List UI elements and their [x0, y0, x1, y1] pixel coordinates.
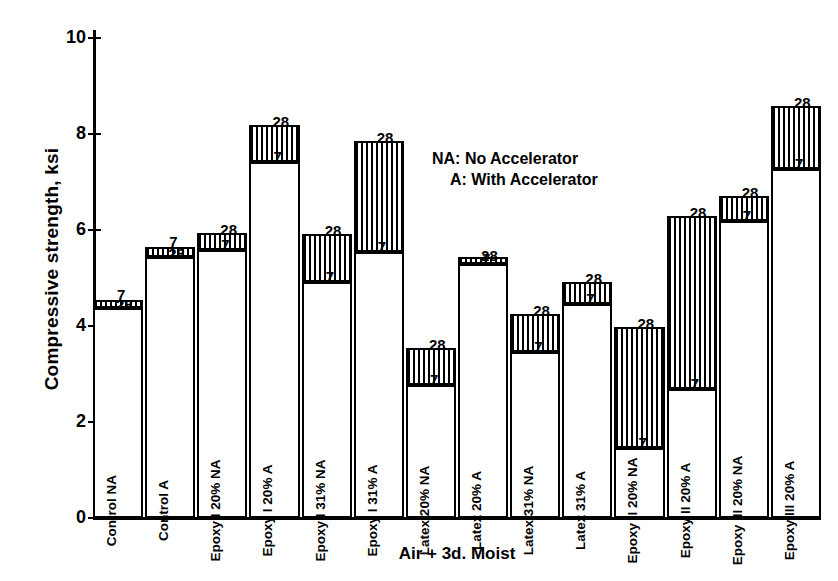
bar-7day-base[interactable] [145, 257, 195, 519]
bar-group[interactable]: 287Epoxy II 20% NA [614, 30, 664, 518]
bar-value-label-28: 28 [742, 185, 759, 200]
bar-value-label-7: 7 [638, 435, 646, 450]
bar-category-label: Control A [157, 480, 171, 541]
bar-category-label: Epoxy I 20% A [261, 464, 275, 556]
bar-group[interactable]: 287Epoxy I 20% A [249, 30, 299, 518]
bar-group[interactable]: 287Epoxy I 31% NA [302, 30, 352, 518]
bar-group[interactable]: 287Latex 20% NA [406, 30, 456, 518]
bar-value-label-7: 7 [691, 376, 699, 391]
bar-value-label-7: 7 [586, 291, 594, 306]
bar-group[interactable]: 287Epoxy III 20% A [771, 30, 821, 518]
y-axis-tick-label: 4 [0, 315, 96, 336]
y-axis-tick-label: 0 [0, 507, 96, 528]
bar-value-label-7: 7 [378, 239, 386, 254]
y-axis-tick-label: 10 [0, 27, 96, 48]
bar-value-label-7: 7 [326, 269, 334, 284]
bar-chart-figure: Compressive strength, ksi 1086420 287Con… [0, 0, 838, 581]
bar-value-label-28: 28 [585, 271, 602, 286]
bar-value-label-7: 7 [430, 372, 438, 387]
bar-value-label-28: 28 [325, 223, 342, 238]
legend: NA: No Accelerator A: With Accelerator [432, 148, 598, 190]
plot-area: 287Control NA287Control A287Epoxy I 20% … [93, 30, 821, 518]
bar-28day-cap[interactable] [614, 327, 664, 448]
bar-group[interactable]: 287Latex 31% NA [510, 30, 560, 518]
bar-value-label-7: 7 [482, 251, 490, 266]
bar-value-label-7: 7 [795, 156, 803, 171]
bar-category-label: Latex 20% A [470, 470, 484, 549]
bar-value-label-28: 28 [690, 205, 707, 220]
bar-group[interactable]: 287Latex 31% A [562, 30, 612, 518]
bar-value-label-28: 28 [377, 130, 394, 145]
bar-value-label-28: 28 [794, 95, 811, 110]
x-axis-title: Air + 3d. Moist [93, 544, 821, 564]
bar-value-label-28: 28 [429, 337, 446, 352]
bar-value-label-7: 7 [743, 208, 751, 223]
bar-value-label-7: 7 [117, 287, 125, 302]
y-axis-tick-label: 2 [0, 411, 96, 432]
y-axis-tick-label: 8 [0, 123, 96, 144]
bar-value-label-7: 7 [169, 234, 177, 249]
bar-group[interactable]: 287Epoxy II 20% A [667, 30, 717, 518]
bar-category-label: Latex 20% NA [417, 465, 431, 554]
bar-value-label-28: 28 [272, 114, 289, 129]
bar-value-label-7: 7 [273, 149, 281, 164]
bar-category-label: Control NA [105, 474, 119, 545]
bar-value-label-28: 28 [533, 303, 550, 318]
bar-group[interactable]: 287Latex 20% A [458, 30, 508, 518]
bar-group[interactable]: 287Epoxy I 31% A [354, 30, 404, 518]
bar-value-label-7: 7 [221, 237, 229, 252]
bar-category-label: Latex 31% NA [522, 465, 536, 554]
bar-group[interactable]: 287Control A [145, 30, 195, 518]
legend-item-na: NA: No Accelerator [432, 148, 598, 169]
y-axis-tick-label: 6 [0, 219, 96, 240]
bar-category-label: Latex 31% A [574, 470, 588, 549]
bar-28day-cap[interactable] [667, 216, 717, 390]
bar-group[interactable]: 287Epoxy I 20% NA [197, 30, 247, 518]
bar-value-label-28: 28 [220, 222, 237, 237]
bar-value-label-28: 28 [637, 316, 654, 331]
bar-value-label-7: 7 [534, 339, 542, 354]
bar-group[interactable]: 287Control NA [93, 30, 143, 518]
bar-28day-cap[interactable] [354, 141, 404, 251]
bar-category-label: Epoxy I 31% A [365, 464, 379, 556]
bar-group[interactable]: 287Epoxy III 20% NA [719, 30, 769, 518]
legend-item-a: A: With Accelerator [432, 169, 598, 190]
x-axis-line [93, 517, 821, 520]
